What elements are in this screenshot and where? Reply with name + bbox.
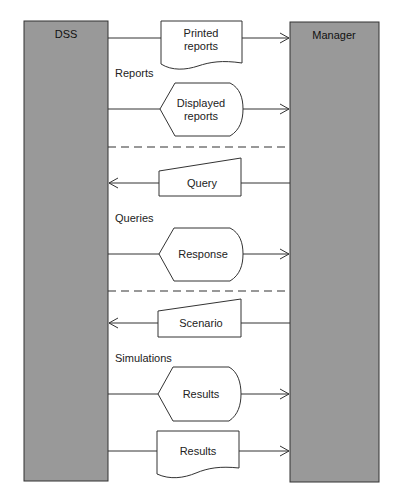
dss-label: DSS (55, 28, 78, 40)
scenario-label: Scenario (179, 317, 222, 329)
printed-reports-line1: Printed (184, 27, 219, 39)
displayed-reports-line1: Displayed (177, 97, 225, 109)
section-label-reports: Reports (115, 67, 154, 79)
displayed-reports-line2: reports (184, 110, 219, 122)
manager-entity: Manager (290, 22, 379, 482)
section-label-simulations: Simulations (115, 352, 172, 364)
dss-entity: DSS (24, 21, 108, 481)
results-document-label: Results (180, 445, 217, 457)
manager-label: Manager (312, 29, 356, 41)
query-label: Query (187, 177, 217, 189)
response-label: Response (178, 248, 228, 260)
printed-reports-line2: reports (184, 40, 219, 52)
dss-manager-interaction-diagram: DSS Manager Reports Queries Simulations (0, 0, 397, 498)
results-display-label: Results (183, 388, 220, 400)
section-label-queries: Queries (115, 212, 154, 224)
